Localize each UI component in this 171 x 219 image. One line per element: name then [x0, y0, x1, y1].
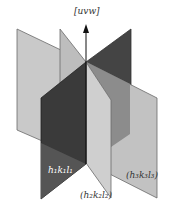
plane-3-label: (h₃k₃l₃): [126, 170, 158, 180]
zone-axis-arrowhead-icon: [83, 24, 89, 33]
axis-label: [uvw]: [74, 6, 100, 16]
plane-1-label: h₁k₁l₁: [48, 165, 73, 175]
plane-2-label: (h₂k₂l₂): [80, 190, 112, 200]
zone-axis-diagram: [0, 0, 171, 219]
